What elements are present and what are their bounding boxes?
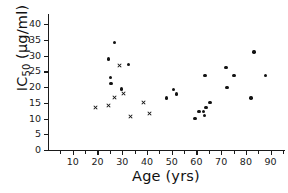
scatter-plot-figure: IC50 (µg/ml) Age (yrs) 05101520253035401… bbox=[0, 0, 288, 193]
x-tick-minor bbox=[60, 151, 61, 154]
x-tick-label: 10 bbox=[63, 157, 83, 167]
y-tick-label: 35 bbox=[19, 35, 41, 45]
data-point-dot bbox=[175, 92, 178, 95]
x-tick-minor bbox=[209, 151, 210, 154]
x-tick-minor bbox=[283, 151, 284, 154]
x-tick-label: 40 bbox=[137, 157, 157, 167]
y-tick-label: 20 bbox=[19, 82, 41, 92]
x-tick-minor bbox=[110, 151, 111, 154]
x-tick-major bbox=[73, 151, 74, 155]
x-tick-label: 90 bbox=[261, 157, 281, 167]
data-point-dot bbox=[109, 82, 112, 85]
y-tick bbox=[44, 24, 48, 25]
y-tick bbox=[44, 40, 48, 41]
x-tick-major bbox=[271, 151, 272, 155]
y-tick-label: 0 bbox=[19, 145, 41, 155]
data-point-dot bbox=[204, 106, 207, 109]
data-point-cross bbox=[141, 100, 146, 105]
x-tick-major bbox=[196, 151, 197, 155]
y-tick-label: 15 bbox=[19, 98, 41, 108]
data-point-dot bbox=[208, 101, 211, 104]
y-tick bbox=[44, 134, 48, 135]
data-point-dot bbox=[203, 114, 206, 117]
x-tick-major bbox=[172, 151, 173, 155]
data-point-dot bbox=[264, 74, 267, 77]
data-point-dot bbox=[113, 41, 116, 44]
data-point-dot bbox=[109, 76, 112, 79]
x-axis-title: Age (yrs) bbox=[48, 168, 284, 184]
data-point-cross bbox=[117, 63, 122, 68]
x-tick-major bbox=[221, 151, 222, 155]
data-point-cross bbox=[121, 91, 126, 96]
data-point-dot bbox=[203, 74, 206, 77]
x-tick-label: 80 bbox=[236, 157, 256, 167]
x-axis-line bbox=[44, 150, 285, 151]
y-tick-label: 25 bbox=[19, 66, 41, 76]
data-point-dot bbox=[193, 117, 196, 120]
data-point-dot bbox=[224, 66, 227, 69]
data-point-dot bbox=[165, 96, 168, 99]
data-point-dot bbox=[107, 57, 110, 60]
y-tick-label: 30 bbox=[19, 51, 41, 61]
x-tick-minor bbox=[159, 151, 160, 154]
data-point-cross bbox=[128, 114, 133, 119]
data-point-dot bbox=[252, 50, 255, 53]
data-point-dot bbox=[197, 110, 200, 113]
x-tick-minor bbox=[85, 151, 86, 154]
y-tick bbox=[44, 103, 48, 104]
data-point-dot bbox=[172, 88, 175, 91]
y-tick-label: 40 bbox=[19, 19, 41, 29]
x-tick-minor bbox=[184, 151, 185, 154]
data-point-cross bbox=[112, 95, 117, 100]
y-tick bbox=[44, 56, 48, 57]
y-tick-label: 5 bbox=[19, 129, 41, 139]
data-point-dot bbox=[249, 96, 252, 99]
x-tick-minor bbox=[135, 151, 136, 154]
y-axis-line bbox=[48, 14, 49, 151]
y-tick-label: 10 bbox=[19, 114, 41, 124]
x-tick-label: 20 bbox=[87, 157, 107, 167]
x-tick-minor bbox=[258, 151, 259, 154]
x-tick-major bbox=[147, 151, 148, 155]
data-point-cross bbox=[147, 111, 152, 116]
x-tick-major bbox=[246, 151, 247, 155]
y-tick bbox=[44, 150, 48, 151]
y-tick bbox=[44, 119, 48, 120]
x-tick-major bbox=[97, 151, 98, 155]
x-tick-label: 50 bbox=[162, 157, 182, 167]
x-tick-label: 60 bbox=[186, 157, 206, 167]
data-point-dot bbox=[202, 110, 205, 113]
x-tick-minor bbox=[234, 151, 235, 154]
data-point-dot bbox=[127, 63, 130, 66]
data-point-dot bbox=[225, 86, 228, 89]
y-tick bbox=[44, 71, 48, 72]
data-point-cross bbox=[93, 105, 98, 110]
x-tick-label: 30 bbox=[112, 157, 132, 167]
data-point-cross bbox=[106, 103, 111, 108]
y-tick bbox=[44, 87, 48, 88]
data-point-dot bbox=[232, 74, 235, 77]
x-tick-major bbox=[122, 151, 123, 155]
x-tick-label: 70 bbox=[211, 157, 231, 167]
